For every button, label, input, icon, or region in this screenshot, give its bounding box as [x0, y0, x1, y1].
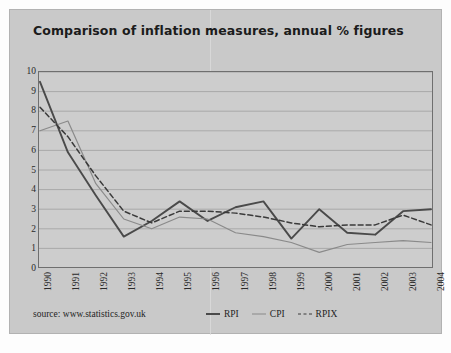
y-tick-label: 6	[20, 145, 36, 155]
data-series-layer	[39, 72, 432, 268]
legend-label-rpix: RPIX	[316, 309, 338, 319]
legend-item-cpi[interactable]: CPI	[252, 309, 285, 319]
y-tick-label: 3	[20, 204, 36, 214]
y-tick-label: 4	[20, 184, 36, 194]
chart-card: Comparison of inflation measures, annual…	[9, 9, 442, 334]
y-tick-label: 10	[20, 66, 36, 76]
y-tick-label: 1	[20, 243, 36, 253]
x-tick-label: 1998	[268, 272, 278, 291]
x-tick-label: 1993	[127, 272, 137, 291]
chart-legend: RPI CPI RPIX	[206, 306, 337, 322]
y-axis-labels: 012345678910	[16, 71, 36, 268]
page-canvas: Comparison of inflation measures, annual…	[0, 0, 451, 353]
legend-item-rpi[interactable]: RPI	[206, 309, 239, 319]
y-tick-label: 9	[20, 86, 36, 96]
x-tick-label: 1995	[183, 272, 193, 291]
y-tick-label: 5	[20, 165, 36, 175]
x-tick-label: 2001	[352, 272, 362, 291]
rpix-line-icon	[298, 310, 312, 318]
legend-item-rpix[interactable]: RPIX	[298, 309, 338, 319]
x-tick-label: 1990	[43, 272, 53, 291]
x-tick-label: 1991	[71, 272, 81, 291]
x-tick-label: 1997	[240, 272, 250, 291]
cpi-line-icon	[252, 310, 266, 318]
y-tick-label: 0	[20, 263, 36, 273]
y-tick-label: 7	[20, 125, 36, 135]
x-tick-label: 2003	[408, 272, 418, 291]
legend-label-rpi: RPI	[224, 309, 239, 319]
x-tick-label: 2002	[380, 272, 390, 291]
rpi-line-icon	[206, 310, 220, 318]
x-tick-label: 2000	[324, 272, 334, 291]
x-tick-label: 1996	[211, 272, 221, 291]
chart-title: Comparison of inflation measures, annual…	[33, 23, 423, 38]
source-note: source: www.statistics.gov.uk	[33, 309, 146, 319]
x-tick-label: 1992	[99, 272, 109, 291]
y-tick-label: 8	[20, 105, 36, 115]
x-tick-label: 1999	[296, 272, 306, 291]
x-tick-label: 2004	[436, 272, 446, 291]
y-tick-label: 2	[20, 224, 36, 234]
legend-label-cpi: CPI	[270, 309, 285, 319]
x-tick-label: 1994	[155, 272, 165, 291]
plot-area	[38, 71, 433, 268]
